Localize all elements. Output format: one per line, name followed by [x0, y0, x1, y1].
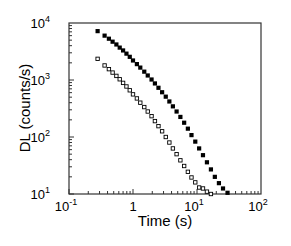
data-point [160, 90, 164, 94]
data-point [201, 153, 205, 157]
data-point [197, 186, 200, 189]
data-point [164, 135, 167, 138]
data-point [118, 78, 121, 81]
y-tick-label: 103 [31, 71, 50, 88]
data-point [121, 81, 124, 84]
data-point [178, 115, 182, 119]
axis-ticks [69, 26, 258, 194]
data-point [194, 181, 197, 184]
data-point [168, 141, 171, 144]
data-point [193, 140, 197, 144]
x-tick-label: 10-1 [55, 197, 77, 214]
y-axis-title: DL (counts/s) [16, 64, 33, 153]
data-point [205, 190, 208, 193]
plot-frame [69, 23, 261, 194]
series-filled-square [96, 29, 230, 195]
data-point [167, 99, 171, 103]
data-point [205, 160, 209, 164]
data-point [153, 81, 157, 85]
data-point [131, 93, 134, 96]
data-point [107, 37, 111, 41]
data-point [217, 181, 221, 185]
data-point [160, 130, 163, 133]
data-point [221, 186, 225, 190]
data-point [96, 57, 99, 60]
data-point [153, 119, 156, 122]
data-point [149, 77, 153, 81]
data-point [213, 175, 217, 179]
data-point [107, 67, 110, 70]
data-point [186, 127, 190, 131]
scatter-chart: 10-11101102 101102103104 Time (s) DL (co… [0, 0, 291, 246]
data-point [197, 146, 201, 150]
data-point [142, 70, 146, 74]
data-point [146, 73, 150, 77]
x-axis-title: Time (s) [138, 212, 192, 229]
data-point [171, 104, 175, 108]
data-point [171, 147, 174, 150]
data-point [182, 121, 186, 125]
series-open-square [96, 57, 213, 196]
data-point [96, 29, 100, 33]
data-point [128, 89, 131, 92]
y-tick-label: 104 [31, 14, 50, 31]
data-point [143, 105, 146, 108]
x-tick-label: 102 [248, 197, 267, 214]
x-tick-label: 1 [129, 199, 136, 214]
plot-border [69, 23, 261, 194]
data-point [131, 58, 135, 62]
y-tick-label: 101 [31, 185, 50, 202]
data-point [174, 109, 178, 113]
data-point [190, 176, 193, 179]
data-point [156, 86, 160, 90]
data-point [186, 170, 189, 173]
data-point [209, 167, 213, 171]
data-point [146, 110, 149, 113]
data-point [103, 34, 107, 38]
data-point [201, 187, 204, 190]
data-point [128, 55, 132, 59]
data-point [111, 71, 114, 74]
y-tick-labels: 101102103104 [31, 14, 50, 202]
data-point [164, 95, 168, 99]
data-point [157, 124, 160, 127]
data-point [125, 85, 128, 88]
data-point [139, 101, 142, 104]
y-tick-label: 102 [31, 128, 50, 145]
data-point [179, 159, 182, 162]
data-point [150, 114, 153, 117]
data-series [96, 29, 230, 196]
data-point [110, 40, 114, 44]
data-point [225, 191, 229, 195]
data-point [189, 133, 193, 137]
data-point [115, 74, 118, 77]
data-point [209, 192, 212, 195]
data-point [103, 64, 106, 67]
data-point [175, 152, 178, 155]
data-point [135, 97, 138, 100]
data-point [138, 66, 142, 70]
data-point [182, 164, 185, 167]
